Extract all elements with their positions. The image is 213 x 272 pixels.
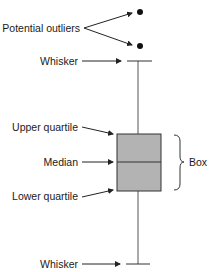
label-whisker-top: Whisker [40, 55, 78, 67]
outlier-point-lower [137, 43, 143, 49]
lower-quartile-arrow [82, 190, 113, 197]
box-brace [174, 135, 184, 190]
upper-quartile-arrow [82, 127, 113, 134]
label-potential-outliers: Potential outliers [2, 22, 80, 34]
box-plot-diagram: Potential outliers Whisker Upper quartil… [0, 0, 213, 272]
label-lower-quartile: Lower quartile [12, 190, 78, 202]
outlier-arrow-upper [84, 13, 132, 28]
outlier-point-upper [137, 9, 143, 15]
label-whisker-bottom: Whisker [40, 258, 78, 270]
label-median: Median [44, 156, 79, 168]
label-upper-quartile: Upper quartile [12, 121, 78, 133]
outlier-arrow-lower [84, 28, 132, 45]
label-box: Box [189, 156, 208, 168]
